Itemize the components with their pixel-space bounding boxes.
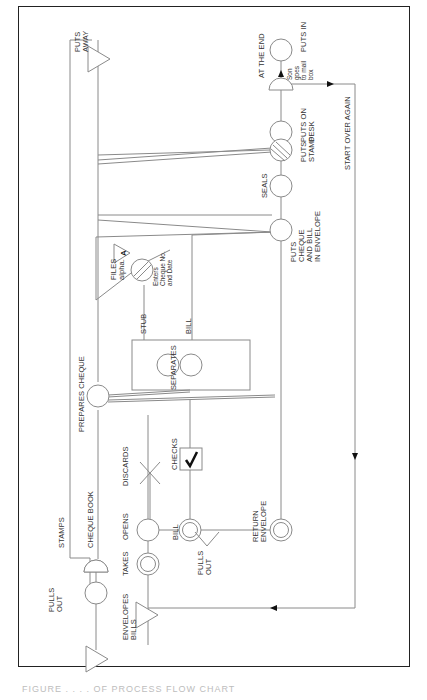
label-prepares-cheque: PREPARES CHEQUE: [77, 356, 86, 432]
operation-circle-seals: [270, 175, 292, 197]
operation-circle-puts-in: [270, 39, 292, 61]
label-puts-cheque: IN ENVELOPE: [313, 211, 322, 262]
label-son-goes: box: [307, 69, 314, 80]
label-pulls-out-2: OUT: [204, 559, 213, 575]
label-stamps: STAMPS: [57, 517, 66, 548]
label-seals: SEALS: [260, 173, 269, 198]
label-son-goes: Son: [286, 68, 293, 80]
label-files-alpha: alpha.: [117, 259, 126, 280]
hatched-circle-puts-stamp: [270, 139, 292, 161]
label-puts-away: AWAY: [81, 31, 90, 52]
label-enters: and Date: [166, 259, 173, 286]
storage-triangle-icon: [86, 646, 108, 672]
file-marker-a: A: [119, 250, 128, 256]
operation-circle-puts-cheque: [270, 219, 292, 241]
arrow-up-icon: [278, 70, 284, 77]
operation-circle-pulls-out: [85, 582, 107, 604]
connector: [96, 232, 275, 237]
arrow-left-icon: [270, 605, 277, 611]
operation-circle-separates: [180, 354, 202, 376]
label-bill: BILL: [171, 524, 180, 540]
label-envelope: ENVELOPE: [259, 501, 268, 542]
label-puts-on-desk: DESK: [307, 121, 316, 142]
operation-circle-prepares-cheque: [87, 385, 109, 407]
hatched-circle-enters: [131, 259, 153, 281]
label-takes: TAKES: [121, 551, 130, 576]
label-discards: DISCARDS: [121, 446, 130, 486]
label-cheque-book: CHEQUE BOOK: [86, 491, 95, 548]
label-opens: OPENS: [121, 513, 130, 540]
storage-triangle-icon: [136, 602, 158, 628]
label-checks: CHECKS: [170, 438, 179, 470]
operation-circle-opens: [137, 519, 159, 541]
storage-triangle-icon: [88, 46, 110, 72]
label-enters: Enters: [152, 266, 159, 286]
label-son-goes: to mail: [300, 60, 307, 80]
label-at-the-end: AT THE END: [257, 33, 266, 78]
label-start-over-again: START OVER AGAIN: [343, 96, 352, 170]
label-pulls-out: OUT: [55, 596, 64, 612]
delay-d-icon: [84, 560, 108, 572]
label-bill-2: BILL: [184, 318, 193, 334]
label-puts-in: PUTS IN: [299, 22, 308, 52]
flow-chart: PULLS OUT ENVELOPES BILLS STAMPS CHEQUE …: [0, 0, 427, 700]
label-bills: BILLS: [129, 619, 138, 640]
figure-caption: FIGURE . . . . OF PROCESS FLOW CHART: [22, 684, 235, 694]
arrow-right-icon: [327, 81, 334, 87]
connector: [98, 220, 272, 232]
stamps-line: [70, 40, 92, 558]
label-stub: STUB: [139, 314, 148, 334]
label-separates: SEPARATES: [169, 345, 178, 390]
arrow-down-icon: [352, 453, 358, 460]
